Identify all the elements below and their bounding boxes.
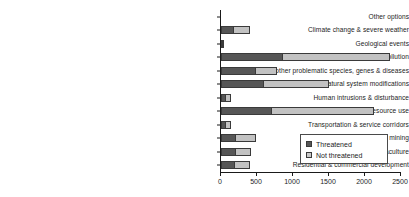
x-axis-tick [292, 172, 293, 176]
bar-segment-threatened [221, 53, 282, 61]
x-axis-tick-label: 2000 [356, 177, 372, 186]
chart-legend: Threatened Not threatened [300, 134, 388, 164]
x-axis-tick-label: 1000 [284, 177, 300, 186]
y-axis-tick [217, 84, 220, 85]
x-axis-tick [328, 172, 329, 176]
category-row: Other options [0, 10, 409, 24]
stacked-bar [221, 134, 256, 142]
stacked-bar [221, 80, 329, 88]
bar-segment-not-threatened [235, 134, 256, 142]
bar-segment-not-threatened [255, 67, 277, 75]
y-axis-tick [217, 97, 220, 98]
category-label: Geological events [193, 40, 409, 48]
bar-segment-not-threatened [271, 107, 374, 115]
legend-item-not-threatened: Not threatened [306, 150, 387, 161]
bar-segment-threatened [221, 161, 234, 169]
x-axis-tick-label: 0 [218, 177, 222, 186]
category-row: Human intrusions & disturbance [0, 91, 409, 105]
y-axis-tick [217, 124, 220, 125]
y-axis-tick [217, 43, 220, 44]
x-axis-tick-label: 500 [250, 177, 262, 186]
stacked-bar [221, 53, 390, 61]
y-axis-tick [217, 138, 220, 139]
bar-segment-not-threatened [234, 161, 251, 169]
bar-segment-threatened [221, 67, 255, 75]
category-row: Natural system modifications [0, 78, 409, 92]
y-axis-tick [217, 70, 220, 71]
bar-segment-threatened [221, 107, 271, 115]
y-axis-tick [217, 165, 220, 166]
bar-segment-threatened [221, 148, 235, 156]
stacked-bar-chart: Other optionsClimate change & severe wea… [0, 0, 409, 197]
y-axis-tick [217, 57, 220, 58]
category-label: Other options [193, 13, 409, 21]
x-axis-line [220, 172, 401, 173]
bar-segment-not-threatened [235, 148, 252, 156]
bar-segment-not-threatened [263, 80, 329, 88]
y-axis-tick [217, 111, 220, 112]
stacked-bar [221, 161, 250, 169]
legend-item-threatened: Threatened [306, 139, 387, 150]
x-axis-tick-label: 2500 [392, 177, 408, 186]
category-row: Biological resource use [0, 105, 409, 119]
y-axis-tick [217, 16, 220, 17]
legend-swatch-threatened-icon [306, 141, 312, 147]
category-row: Invasive and other problematic species, … [0, 64, 409, 78]
legend-label-not-threatened: Not threatened [316, 151, 362, 160]
y-axis-tick [217, 151, 220, 152]
stacked-bar [221, 148, 251, 156]
stacked-bar [221, 121, 231, 129]
bar-segment-not-threatened [282, 53, 390, 61]
stacked-bar [221, 107, 374, 115]
stacked-bar [221, 94, 231, 102]
bar-segment-threatened [221, 80, 263, 88]
category-row: Pollution [0, 51, 409, 65]
legend-swatch-not-threatened-icon [306, 152, 312, 158]
x-axis-tick [364, 172, 365, 176]
bar-segment-not-threatened [233, 26, 250, 34]
category-row: Geological events [0, 37, 409, 51]
x-axis-tick [256, 172, 257, 176]
x-axis-tick [400, 172, 401, 176]
stacked-bar [221, 26, 250, 34]
bar-segment-not-threatened [225, 94, 231, 102]
bar-segment-threatened [221, 134, 235, 142]
bar-segment-threatened [221, 26, 233, 34]
x-axis-tick [220, 172, 221, 176]
y-axis-tick [217, 30, 220, 31]
legend-label-threatened: Threatened [316, 140, 352, 149]
category-row: Transportation & service corridors [0, 118, 409, 132]
bar-segment-not-threatened [222, 40, 224, 48]
x-axis-tick-label: 1500 [320, 177, 336, 186]
stacked-bar [221, 40, 224, 48]
category-row: Climate change & severe weather [0, 24, 409, 38]
bar-segment-not-threatened [225, 121, 231, 129]
stacked-bar [221, 67, 277, 75]
